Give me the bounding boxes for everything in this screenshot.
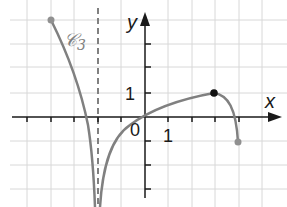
x-axis-arrow-icon — [268, 112, 282, 122]
function-graph: 𝒞3 y x 0 1 1 — [0, 0, 287, 207]
y-axis — [145, 24, 151, 198]
y-axis-label: y — [125, 11, 138, 33]
max-point — [210, 89, 218, 97]
start-point — [48, 17, 55, 24]
x-tick-label: 1 — [163, 126, 173, 146]
x-axis-label: x — [264, 90, 276, 112]
y-tick-label: 1 — [125, 84, 135, 104]
end-point — [235, 139, 242, 146]
grid — [10, 0, 287, 207]
origin-label: 0 — [130, 120, 140, 140]
y-axis-arrow-icon — [140, 12, 150, 26]
curve-label: 𝒞3 — [64, 29, 86, 53]
